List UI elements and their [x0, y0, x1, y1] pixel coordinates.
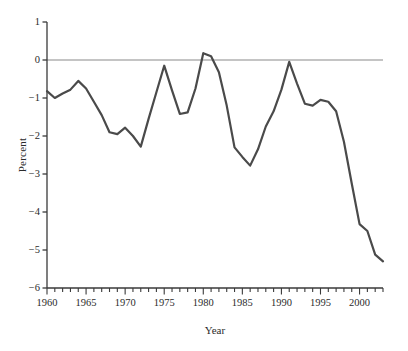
y-tick-label: −5 [29, 245, 40, 256]
y-tick-label: −6 [29, 283, 40, 294]
y-axis-title: Percent [16, 138, 28, 172]
y-tick-label: −3 [29, 169, 40, 180]
y-tick-label: 0 [35, 55, 40, 66]
data-series-line [47, 53, 383, 261]
y-tick-label: −1 [29, 93, 40, 104]
x-tick-label: 1990 [271, 298, 292, 309]
chart-container: 10−1−2−3−4−5−619601965197019751980198519… [0, 0, 408, 351]
x-tick-label: 2000 [349, 298, 370, 309]
y-tick-label: −4 [29, 207, 40, 218]
axis-ticks [43, 22, 384, 295]
x-tick-label: 1980 [193, 298, 214, 309]
x-tick-label: 1970 [115, 298, 136, 309]
x-tick-label: 1985 [232, 298, 253, 309]
y-tick-label: 1 [35, 17, 40, 28]
x-tick-label: 1960 [37, 298, 58, 309]
x-tick-label: 1995 [310, 298, 331, 309]
x-tick-label: 1965 [76, 298, 97, 309]
y-tick-label: −2 [29, 131, 40, 142]
x-axis-title: Year [205, 324, 225, 336]
x-tick-label: 1975 [154, 298, 175, 309]
